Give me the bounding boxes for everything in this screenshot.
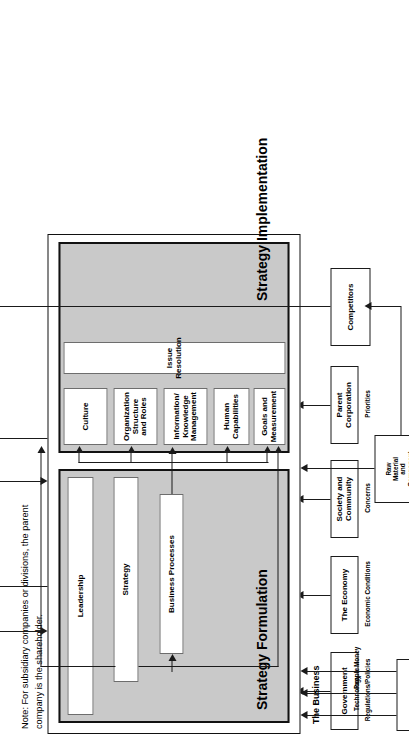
arrow-line-economy <box>302 595 330 596</box>
box-business-processes: Business Processes <box>159 494 183 654</box>
connector-leadership-riser <box>40 666 115 667</box>
arrow-line-capital <box>0 631 41 632</box>
arrow-head-needs <box>40 478 47 486</box>
arrow-head-goals <box>263 446 271 453</box>
flow-label-money: Money <box>352 647 359 667</box>
arrow-line-needs <box>0 481 41 482</box>
panel-label-strategy-formulation: Strategy Formulation <box>253 569 269 710</box>
arrow-head-technology <box>300 712 307 720</box>
box-organization-structure-and-roles: Organization Structure and Roles <box>113 388 157 445</box>
arrow-line-raw-material-to-business <box>306 468 374 469</box>
connector-processes-to-information <box>171 454 172 494</box>
arrow-line-parent-corp <box>302 405 330 406</box>
box-culture: Culture <box>63 388 107 445</box>
external-box-parent-corporation: Parent Corporation <box>330 366 358 444</box>
arrow-head-raw-material-to-business <box>300 465 307 473</box>
competitors-feed-riser <box>370 306 401 307</box>
arrow-line-technology <box>306 715 396 716</box>
arrow-head-goals-feedback <box>274 446 282 453</box>
external-box-raw-material-suppliers: Raw Material and Component Suppliers <box>374 435 409 503</box>
external-box-resource-providers: Resource Providers <box>396 659 409 731</box>
arrow-line-money <box>306 671 396 672</box>
arrow-line-equity-dividends <box>0 586 47 587</box>
external-box-society-and-community: Society and Community <box>330 460 358 538</box>
box-human-capabilities: Human Capabilities <box>213 388 249 445</box>
arrow-line-people <box>306 693 396 694</box>
arrow-head-human <box>223 446 231 453</box>
arrow-head-suppliers-to-competitors <box>364 303 371 311</box>
arrow-head-processes-to-information <box>168 447 176 454</box>
box-strategy: Strategy <box>113 477 138 682</box>
box-information-knowledge-management: Information/ Knowledge Management <box>163 388 207 445</box>
connector-goals-feedback <box>277 452 278 667</box>
box-goals-and-measurement: Goals and Measurement <box>253 388 285 445</box>
flow-label-concerns: Concerns <box>363 462 370 534</box>
arrow-line-products-services <box>0 438 47 439</box>
competitors-line-up <box>0 306 330 307</box>
arrow-head-organization <box>127 446 135 453</box>
external-box-the-economy: The Economy <box>330 556 358 634</box>
arrow-head-capital <box>40 628 47 636</box>
arrow-head-culture <box>75 446 83 453</box>
box-issue-resolution: Issue Resolution <box>63 342 285 374</box>
flow-label-priorities: Priorities <box>363 368 370 440</box>
flow-label-economic-conditions: Economic Conditions <box>363 558 370 630</box>
panel-label-strategy-implementation: Strategy Implementation <box>253 138 269 301</box>
arrow-head-people <box>300 690 307 698</box>
arrow-line-society <box>302 499 330 500</box>
connector-goals-riser <box>138 666 278 667</box>
arrow-head-money <box>300 668 307 676</box>
box-leadership: Leadership <box>67 477 93 715</box>
arrow-head-strategy-to-processes <box>168 654 176 661</box>
diagram-canvas: Note: For subsidiary companies or divisi… <box>0 0 409 744</box>
arrow-head-leadership-to-culture <box>37 446 45 453</box>
connector-spine-implementation <box>78 462 268 463</box>
